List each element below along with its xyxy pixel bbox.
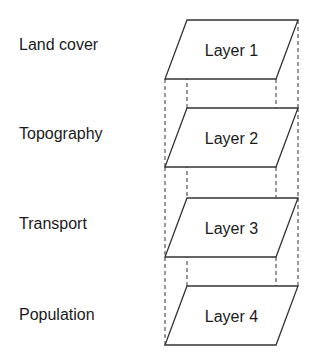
- layer-label: Layer 3: [205, 220, 258, 237]
- layer-plane-1: Layer 1: [165, 20, 298, 79]
- layer-planes: Layer 1Layer 2Layer 3Layer 4: [165, 20, 298, 345]
- layer-plane-3: Layer 3: [165, 198, 298, 257]
- layer-label: Layer 4: [205, 308, 258, 325]
- layer-label: Layer 1: [205, 42, 258, 59]
- layer-plane-2: Layer 2: [165, 108, 298, 167]
- layer-stack-svg: Layer 1Layer 2Layer 3Layer 4: [0, 0, 314, 363]
- layer-stack-diagram: Land cover Topography Transport Populati…: [0, 0, 314, 363]
- layer-plane-4: Layer 4: [165, 286, 298, 345]
- layer-label: Layer 2: [205, 130, 258, 147]
